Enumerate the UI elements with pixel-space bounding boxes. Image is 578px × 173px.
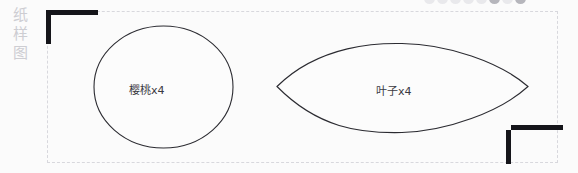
pattern-diagram-canvas: 纸 样 图 樱桃x4 叶子x4 [0, 0, 578, 173]
shape-label-cherry: 樱桃x4 [129, 81, 165, 97]
shape-label-leaf: 叶子x4 [376, 82, 412, 98]
pattern-shapes-layer [0, 0, 578, 173]
